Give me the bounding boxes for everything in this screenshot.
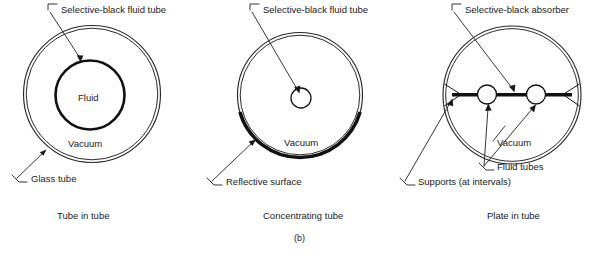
panel-title-tube-in-tube: Tube in tube xyxy=(57,210,109,221)
panel-tube-in-tube: Selective-black fluid tube Fluid Vacuum … xyxy=(12,4,166,221)
label-vacuum-2: Vacuum xyxy=(284,137,318,148)
label-reflective-surface: Reflective surface xyxy=(226,176,302,187)
figure-container: Selective-black fluid tube Fluid Vacuum … xyxy=(0,0,593,256)
selective-black-fluid-tube-small-circle xyxy=(291,88,311,108)
fluid-tube-left xyxy=(478,85,497,104)
label-supports: Supports (at intervals) xyxy=(418,176,511,187)
panel-title-plate-in-tube: Plate in tube xyxy=(487,210,540,221)
reflective-surface-arc xyxy=(240,112,360,157)
figure-caption: (b) xyxy=(294,233,305,243)
label-selective-black-fluid-tube-2: Selective-black fluid tube xyxy=(263,4,368,15)
label-glass-tube: Glass tube xyxy=(31,173,76,184)
label-vacuum-1: Vacuum xyxy=(68,138,102,149)
panel-title-concentrating-tube: Concentrating tube xyxy=(263,210,343,221)
label-fluid-tubes: Fluid tubes xyxy=(497,161,544,172)
label-fluid: Fluid xyxy=(78,92,99,103)
label-selective-black-fluid-tube-1: Selective-black fluid tube xyxy=(61,4,166,15)
solar-collector-cross-sections-diagram: Selective-black fluid tube Fluid Vacuum … xyxy=(0,0,593,256)
fluid-tube-right xyxy=(527,85,546,104)
panel-plate-in-tube: Selective-black absorber Vacuum Fluid tu… xyxy=(400,4,581,221)
panel-concentrating-tube: Selective-black fluid tube Vacuum Reflec… xyxy=(207,4,368,221)
leader-supports xyxy=(400,99,453,186)
label-vacuum-3: Vacuum xyxy=(497,137,531,148)
label-selective-black-absorber: Selective-black absorber xyxy=(465,4,569,15)
